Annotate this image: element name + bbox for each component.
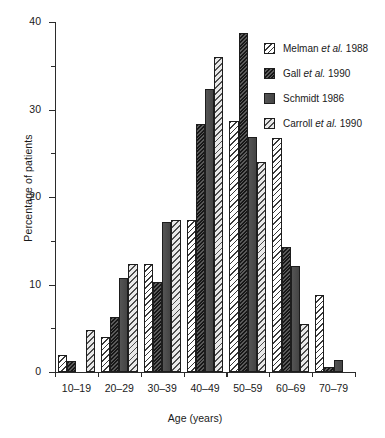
bar-schmidt-50–59 (248, 137, 257, 372)
y-tick-10: 10 (49, 285, 55, 286)
bar-gall-30–39 (153, 282, 162, 372)
y-tick-label: 40 (29, 15, 41, 27)
legend-item-melman: Melman et al. 1988 (264, 36, 384, 61)
bar-carroll-60–69 (300, 324, 309, 372)
bar-melman-70–79 (315, 295, 324, 372)
bar-schmidt-40–49 (205, 89, 214, 372)
bar-melman-30–39 (144, 264, 153, 373)
bar-carroll-40–49 (214, 57, 223, 372)
y-tick-label: 10 (29, 278, 41, 290)
y-tick-minor-35 (51, 66, 55, 67)
bar-schmidt-20–29 (119, 278, 128, 373)
bar-gall-10–19 (67, 361, 76, 372)
bar-schmidt-70–79 (334, 360, 343, 372)
y-tick-label: 30 (29, 103, 41, 115)
legend-swatch-melman-icon (264, 43, 275, 54)
x-tick (312, 372, 313, 377)
bar-melman-50–59 (229, 121, 238, 372)
x-tick (55, 372, 56, 377)
x-tick (184, 372, 185, 377)
bar-gall-50–59 (239, 33, 248, 373)
legend-item-gall: Gall et al. 1990 (264, 61, 384, 86)
y-tick-minor-15 (51, 241, 55, 242)
bar-gall-20–29 (110, 317, 119, 372)
y-tick-40: 40 (49, 22, 55, 23)
x-tick-label-20–29: 20–29 (105, 382, 134, 394)
x-tick (269, 372, 270, 377)
bar-carroll-10–19 (86, 330, 95, 372)
y-tick-minor-5 (51, 328, 55, 329)
x-tick-label-40–49: 40–49 (190, 382, 219, 394)
y-tick-20: 20 (49, 197, 55, 198)
bar-melman-10–19 (58, 355, 67, 373)
bar-carroll-30–39 (171, 220, 180, 372)
y-tick-label: 0 (35, 365, 41, 377)
bar-gall-60–69 (282, 247, 291, 372)
x-tick-label-50–59: 50–59 (233, 382, 262, 394)
y-tick-30: 30 (49, 110, 55, 111)
bar-melman-60–69 (272, 138, 281, 373)
bar-gall-70–79 (324, 367, 333, 372)
legend-label-schmidt: Schmidt 1986 (283, 93, 344, 104)
x-tick (141, 372, 142, 377)
bar-melman-20–29 (101, 337, 110, 372)
legend-label-melman: Melman et al. 1988 (283, 43, 368, 54)
y-tick-minor-25 (51, 153, 55, 154)
bar-gall-40–49 (196, 124, 205, 373)
bar-melman-40–49 (187, 220, 196, 372)
chart-figure: Percentage of patients 010203040 10–1920… (0, 0, 385, 438)
x-tick-label-60–69: 60–69 (276, 382, 305, 394)
bar-carroll-20–29 (128, 264, 137, 373)
legend-item-schmidt: Schmidt 1986 (264, 86, 384, 111)
legend-swatch-carroll-icon (264, 118, 275, 129)
x-axis-line (55, 372, 355, 373)
x-axis-label: Age (years) (40, 412, 350, 424)
y-axis-line (55, 22, 56, 372)
x-tick-label-30–39: 30–39 (148, 382, 177, 394)
x-tick (226, 372, 227, 377)
legend-swatch-gall-icon (264, 68, 275, 79)
x-tick-label-10–19: 10–19 (62, 382, 91, 394)
legend-label-gall: Gall et al. 1990 (283, 68, 350, 79)
x-tick (355, 372, 356, 377)
bar-schmidt-30–39 (162, 222, 171, 372)
bar-carroll-50–59 (257, 162, 266, 372)
bar-schmidt-60–69 (291, 266, 300, 372)
y-axis-label: Percentage of patients (22, 98, 34, 278)
legend-label-carroll: Carroll et al. 1990 (283, 118, 362, 129)
x-tick (98, 372, 99, 377)
legend-item-carroll: Carroll et al. 1990 (264, 111, 384, 136)
y-tick-label: 20 (29, 190, 41, 202)
legend-swatch-schmidt-icon (264, 93, 275, 104)
x-tick-label-70–79: 70–79 (319, 382, 348, 394)
chart-legend: Melman et al. 1988Gall et al. 1990Schmid… (264, 36, 384, 136)
